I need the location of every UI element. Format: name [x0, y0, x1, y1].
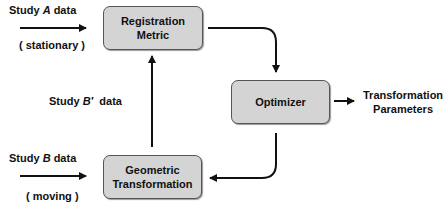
moving-label: ( moving )	[26, 190, 79, 202]
stationary-label: ( stationary )	[19, 39, 85, 51]
output-label: Transformation Parameters	[363, 88, 443, 116]
study-a-label: Study A data	[9, 4, 76, 16]
study-b-label: Study B data	[9, 152, 76, 164]
optimizer-node: Optimizer	[231, 80, 330, 124]
study-b-prime-label: Study B′ data	[49, 95, 122, 107]
registration-metric-node: Registration Metric	[103, 6, 203, 50]
geometric-transformation-node: Geometric Transformation	[103, 155, 202, 199]
